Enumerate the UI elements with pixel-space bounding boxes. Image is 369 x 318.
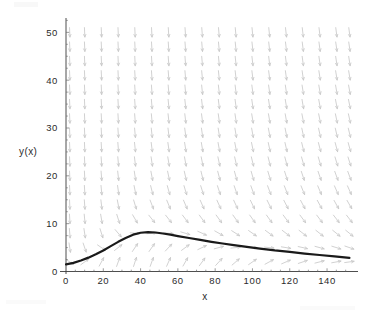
slope-field-plot: 020406080100120140 01020304050 y(x) x [0, 0, 369, 318]
slope-field-segment [282, 230, 290, 236]
slope-field-segment [346, 215, 352, 222]
x-tick-label: 20 [97, 275, 109, 286]
y-axis-ticks [66, 20, 69, 259]
slope-field-segment [299, 230, 306, 236]
y-tick-label: 40 [46, 75, 58, 86]
y-tick-label: 10 [46, 218, 58, 229]
slope-field-segment [166, 215, 172, 222]
slope-field-segment [216, 258, 222, 265]
slope-field-segment [165, 244, 171, 251]
x-tick-label: 40 [135, 275, 147, 286]
y-tick-label: 50 [46, 27, 58, 38]
y-axis-tick-labels: 01020304050 [46, 27, 58, 277]
x-tick-label: 80 [209, 275, 221, 286]
x-tick-label: 120 [281, 275, 299, 286]
slope-field-segment [333, 230, 340, 236]
x-tick-label: 60 [172, 275, 184, 286]
y-tick-label: 0 [52, 266, 58, 277]
slope-field-segment [114, 245, 121, 251]
x-axis-ticks [75, 268, 345, 271]
slope-field-segment [149, 215, 155, 222]
x-tick-label: 140 [318, 275, 336, 286]
axes-group [60, 18, 358, 274]
x-tick-label: 100 [244, 275, 262, 286]
slope-field-segment [333, 215, 339, 223]
x-tick-label: 0 [63, 275, 69, 286]
slope-field-segment [232, 259, 239, 265]
slope-field-segment [317, 215, 323, 223]
y-axis-title: y(x) [19, 146, 37, 157]
figure-canvas: 020406080100120140 01020304050 y(x) x [0, 0, 369, 318]
slope-field-vectors [66, 28, 354, 267]
y-tick-label: 30 [46, 122, 58, 133]
slope-field-segment [346, 230, 353, 236]
slope-field-segment [115, 230, 121, 237]
x-axis-tick-labels: 020406080100120140 [63, 275, 336, 286]
y-tick-label: 20 [46, 170, 58, 181]
slope-field-segment [316, 230, 323, 236]
x-axis-title: x [202, 291, 207, 302]
